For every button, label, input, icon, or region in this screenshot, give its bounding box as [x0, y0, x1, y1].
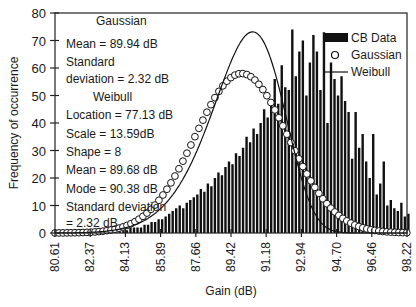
weibull-std-1: Standard deviation — [66, 200, 166, 214]
histogram-bar — [175, 208, 177, 233]
weibull-mode: Mode = 90.38 dB — [66, 182, 158, 196]
y-tick-label: 30 — [32, 144, 46, 159]
gaussian-marker — [259, 86, 266, 93]
gaussian-header: Gaussian — [96, 14, 147, 28]
gaussian-marker — [180, 158, 187, 165]
histogram-chart: 01020304050607080 80.6182.3784.1385.8987… — [0, 0, 416, 307]
weibull-std-2: = 2.32 dB — [66, 216, 118, 230]
histogram-bar — [277, 104, 279, 233]
histogram-bar — [369, 178, 371, 233]
histogram-bar — [259, 123, 261, 233]
gaussian-marker — [196, 125, 203, 132]
gaussian-marker — [311, 184, 318, 191]
legend-circle-marker-icon — [332, 52, 339, 59]
gaussian-std-2: deviation = 2.32 dB — [66, 72, 169, 86]
histogram-bar — [344, 101, 346, 233]
histogram-bar — [171, 211, 173, 233]
x-tick-label: 92.94 — [294, 242, 308, 272]
y-tick-label: 40 — [32, 116, 46, 131]
histogram-bar — [242, 148, 244, 233]
histogram-bar — [224, 167, 226, 233]
gaussian-marker — [192, 133, 199, 140]
y-tick-label: 20 — [32, 171, 46, 186]
gaussian-marker — [204, 109, 211, 116]
histogram-bar — [168, 214, 170, 233]
gaussian-marker — [275, 114, 282, 121]
histogram-bar — [136, 228, 138, 234]
gaussian-marker — [307, 177, 314, 184]
histogram-bar — [252, 129, 254, 234]
histogram-bar — [150, 222, 152, 233]
histogram-bar — [164, 217, 166, 234]
histogram-bar — [203, 192, 205, 233]
histogram-bar — [326, 123, 328, 233]
gaussian-marker — [267, 99, 274, 106]
weibull-mean: Mean = 89.68 dB — [66, 163, 158, 177]
histogram-bar — [319, 90, 321, 233]
x-tick-label: 91.18 — [259, 242, 273, 272]
histogram-bar — [309, 63, 311, 234]
histogram-bar — [238, 156, 240, 233]
gaussian-marker — [200, 117, 207, 124]
histogram-bar — [210, 186, 212, 233]
y-tick-label: 0 — [39, 226, 46, 241]
histogram-bar — [316, 52, 318, 234]
histogram-bar — [196, 195, 198, 234]
legend-bar-swatch — [323, 33, 348, 42]
histogram-bar — [235, 153, 237, 233]
histogram-bar — [266, 118, 268, 234]
legend-weibull: Weibull — [351, 65, 390, 79]
histogram-bar — [214, 178, 216, 233]
gaussian-marker — [168, 179, 175, 186]
x-axis: 80.6182.3784.1385.8987.6689.4291.1892.94… — [48, 229, 414, 272]
histogram-bar — [249, 142, 251, 233]
histogram-bar — [383, 162, 385, 234]
y-axis-label: Frequency of occurrence — [7, 56, 21, 189]
x-tick-label: 89.42 — [224, 242, 238, 272]
y-tick-label: 10 — [32, 199, 46, 214]
gaussian-marker — [208, 101, 215, 108]
histogram-bar — [361, 134, 363, 233]
gaussian-marker — [299, 163, 306, 170]
y-tick-label: 60 — [32, 61, 46, 76]
histogram-bar — [400, 203, 402, 233]
histogram-bar — [133, 228, 135, 234]
histogram-bar — [354, 112, 356, 233]
x-tick-label: 84.13 — [118, 242, 132, 272]
x-tick-label: 94.70 — [330, 242, 344, 272]
x-tick-label: 96.46 — [365, 242, 379, 272]
gaussian-marker — [184, 150, 191, 157]
weibull-location: Location = 77.13 dB — [66, 108, 173, 122]
histogram-bar — [347, 112, 349, 233]
histogram-bar — [302, 41, 304, 234]
histogram-bar — [228, 162, 230, 234]
histogram-bar — [358, 148, 360, 233]
y-tick-label: 80 — [32, 6, 46, 21]
histogram-bar — [298, 52, 300, 234]
x-tick-label: 85.89 — [154, 242, 168, 272]
histogram-bar — [147, 225, 149, 233]
histogram-bar — [288, 90, 290, 233]
histogram-bar — [193, 197, 195, 233]
x-axis-label: Gain (dB) — [205, 284, 256, 298]
histogram-bar — [291, 30, 293, 234]
histogram-bar — [129, 228, 131, 234]
histogram-bar — [182, 208, 184, 233]
gaussian-marker — [176, 165, 183, 172]
histogram-bar — [207, 184, 209, 234]
y-tick-label: 70 — [32, 34, 46, 49]
gaussian-marker — [263, 92, 270, 99]
gaussian-marker — [164, 186, 171, 193]
legend-cb-data: CB Data — [351, 31, 397, 45]
weibull-scale: Scale = 13.59dB — [66, 127, 154, 141]
gaussian-std-1: Standard — [66, 55, 115, 69]
histogram-bar — [340, 76, 342, 233]
histogram-bar — [379, 184, 381, 234]
gaussian-marker — [271, 107, 278, 114]
histogram-bar — [390, 200, 392, 233]
histogram-bar — [270, 101, 272, 233]
histogram-bar — [312, 35, 314, 233]
histogram-bar — [245, 137, 247, 233]
x-tick-label: 82.37 — [83, 242, 97, 272]
histogram-bar — [200, 189, 202, 233]
